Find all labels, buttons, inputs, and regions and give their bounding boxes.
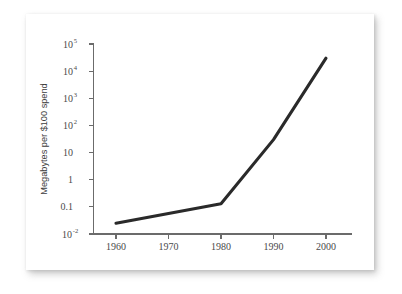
- figure-root: 10 5 10 4 10 3 10 2 10 1 0.1 10 -2 Megab…: [0, 0, 402, 294]
- y-tick-label-1e2-exponent: 2: [74, 118, 77, 125]
- y-axis: [89, 44, 94, 234]
- y-tick-label-1e4: 10: [63, 66, 73, 77]
- x-tick-labels: 1960 1970 1980 1990 2000: [106, 241, 336, 252]
- x-tick-label-1970: 1970: [159, 241, 179, 252]
- y-tick-label-1e2: 10: [63, 120, 73, 131]
- y-tick-label-1em2-exponent: -2: [73, 227, 79, 234]
- y-tick-labels: 10 5 10 4 10 3 10 2 10 1 0.1 10 -2: [61, 37, 79, 240]
- y-tick-label-0p1: 0.1: [61, 201, 74, 212]
- y-axis-title: Megabytes per $100 spend: [39, 83, 49, 194]
- x-axis: [94, 234, 353, 239]
- y-tick-label-1em2: 10: [62, 229, 72, 240]
- x-tick-label-1990: 1990: [264, 241, 284, 252]
- y-tick-label-1e5: 10: [63, 39, 73, 50]
- x-tick-label-2000: 2000: [316, 241, 336, 252]
- y-tick-label-10: 10: [63, 147, 73, 158]
- x-tick-label-1960: 1960: [106, 241, 126, 252]
- y-tick-label-1e3: 10: [63, 93, 73, 104]
- y-tick-label-1: 1: [68, 174, 73, 185]
- y-tick-label-1e3-exponent: 3: [74, 91, 78, 98]
- y-tick-label-1e4-exponent: 4: [74, 64, 78, 71]
- x-tick-label-1980: 1980: [211, 241, 231, 252]
- chart-canvas: 10 5 10 4 10 3 10 2 10 1 0.1 10 -2 Megab…: [0, 0, 402, 294]
- data-series-line: [116, 58, 326, 223]
- y-tick-label-1e5-exponent: 5: [74, 37, 78, 44]
